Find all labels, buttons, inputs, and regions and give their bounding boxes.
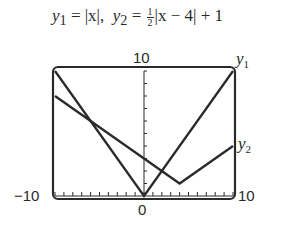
chart-canvas	[0, 0, 301, 225]
xmax-label: 10	[238, 187, 255, 204]
axis-ticks	[55, 71, 233, 196]
series-label-y1: y1	[236, 49, 249, 70]
origin-label: 0	[138, 201, 146, 218]
series-label-y2: y2	[238, 134, 251, 155]
xmin-label: −10	[14, 187, 39, 204]
ymax-label: 10	[133, 49, 150, 66]
